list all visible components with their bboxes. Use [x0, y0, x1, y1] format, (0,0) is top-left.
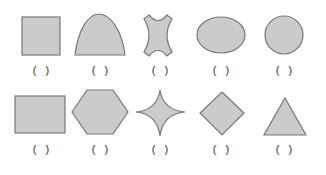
answer-blank[interactable]: ( )	[213, 64, 230, 76]
answer-blank[interactable]: ( )	[92, 143, 109, 155]
answer-blank[interactable]: ( )	[276, 143, 293, 155]
answer-blank[interactable]: ( )	[276, 64, 293, 76]
concave-four-point-shape	[144, 15, 172, 56]
rectangle-shape	[15, 96, 65, 133]
answer-blank[interactable]: ( )	[92, 64, 109, 76]
arch-shape	[75, 14, 125, 55]
diamond-shape	[200, 92, 244, 135]
square-shape	[22, 17, 60, 55]
hexagon-shape	[72, 90, 128, 134]
answer-blank[interactable]: ( )	[33, 143, 50, 155]
triangle-shape	[264, 98, 306, 135]
answer-blank[interactable]: ( )	[33, 64, 50, 76]
circle-shape	[265, 16, 303, 54]
answer-blank[interactable]: ( )	[213, 143, 230, 155]
answer-blank[interactable]: ( )	[152, 143, 169, 155]
ellipse-shape	[197, 17, 245, 53]
four-point-star-shape	[136, 90, 185, 136]
answer-blank[interactable]: ( )	[152, 64, 169, 76]
